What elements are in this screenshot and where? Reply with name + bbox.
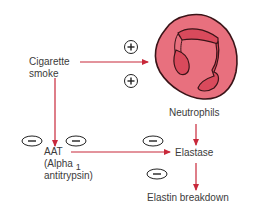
smoke-label-line2: smoke: [29, 68, 70, 80]
cigarette-smoke-label: Cigarette smoke: [29, 56, 70, 80]
aat-label-line3: antitrypsin): [44, 170, 93, 182]
minus-sign-icon: [143, 136, 163, 146]
aat-label-line1: AAT: [44, 146, 93, 158]
plus-sign-icon: [125, 75, 138, 88]
neutrophils-label: Neutrophils: [169, 107, 220, 119]
elastin-breakdown-label: Elastin breakdown: [147, 192, 229, 204]
minus-sign-icon: [147, 169, 167, 179]
neutrophil-cell-icon: [155, 15, 237, 100]
minus-sign-icon: [22, 136, 42, 146]
diagram-graphics: [0, 0, 254, 212]
minus-sign-icon: [66, 136, 86, 146]
aat-label-line2: (Alpha 1: [44, 158, 93, 170]
cigarette-label-line1: Cigarette: [29, 56, 70, 68]
alpha-text: (Alpha: [44, 158, 73, 169]
aat-label: AAT (Alpha 1 antitrypsin): [44, 146, 93, 182]
alpha-subscript: 1: [76, 162, 81, 172]
elastase-label: Elastase: [175, 147, 213, 159]
plus-sign-icon: [125, 41, 138, 54]
